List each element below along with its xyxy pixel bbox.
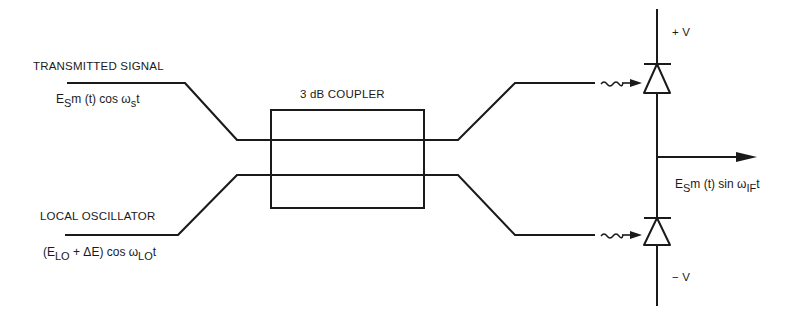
- coupler-output-lower: [424, 175, 595, 235]
- local-oscillator-line: [65, 175, 271, 235]
- lower-diode-icon: [644, 218, 671, 245]
- eq-out-pre: E: [675, 177, 683, 191]
- rf-wave-arrow-upper-icon: [601, 79, 642, 87]
- eq-ts-mid: m (t) cos ω: [71, 92, 130, 106]
- coupler-label: 3 dB COUPLER: [300, 89, 385, 101]
- eq-out-mid: m (t) sin ω: [690, 177, 746, 191]
- eq-ts-pre: E: [56, 92, 64, 106]
- plus-v-label: + V: [672, 27, 690, 39]
- eq-lo-sub2: LO: [138, 250, 153, 262]
- eq-ts-post: t: [136, 92, 139, 106]
- transmitted-signal-equation: ESm (t) cos ωst: [56, 93, 140, 105]
- local-oscillator-label: LOCAL OSCILLATOR: [40, 211, 155, 223]
- eq-lo-sub1: LO: [55, 250, 70, 262]
- eq-lo-pre: (E: [43, 245, 55, 259]
- eq-out-sub2: IF: [746, 182, 756, 194]
- rf-wave-arrow-lower-icon: [601, 231, 642, 239]
- if-output-equation: ESm (t) sin ωIFt: [675, 178, 760, 190]
- upper-diode-icon: [644, 64, 671, 93]
- transmitted-signal-label: TRANSMITTED SIGNAL: [33, 61, 164, 73]
- eq-lo-mid: + ΔE) cos ω: [70, 245, 138, 259]
- eq-lo-post: t: [153, 245, 156, 259]
- if-output-arrowhead: [736, 152, 757, 162]
- coupler-box: [271, 110, 424, 208]
- eq-out-post: t: [756, 177, 759, 191]
- local-oscillator-equation: (ELO + ΔE) cos ωLOt: [43, 246, 156, 258]
- minus-v-label: − V: [672, 272, 690, 284]
- coupler-output-upper: [424, 83, 595, 140]
